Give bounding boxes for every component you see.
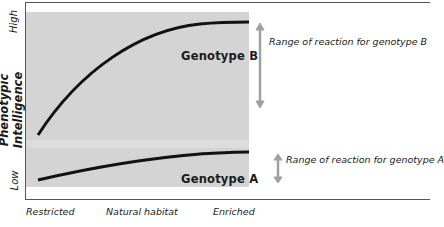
genotype-b-curve	[38, 22, 249, 135]
range-a-arrow-icon	[274, 154, 282, 183]
range-b-label: Range of reaction for genotype B	[269, 36, 427, 47]
range-a-label: Range of reaction for genotype A	[286, 154, 444, 165]
x-tick-enriched: Enriched	[213, 206, 255, 217]
x-tick-natural-habitat: Natural habitat	[106, 206, 178, 217]
genotype-a-label: Genotype A	[181, 172, 258, 186]
x-tick-restricted: Restricted	[26, 206, 75, 217]
y-tick-high: High	[8, 10, 19, 33]
range-b-arrow-icon	[256, 23, 264, 108]
genotype-b-label: Genotype B	[181, 49, 258, 63]
y-axis-title: Phenotypic Intelligence	[0, 55, 25, 165]
y-tick-low: Low	[9, 171, 20, 191]
